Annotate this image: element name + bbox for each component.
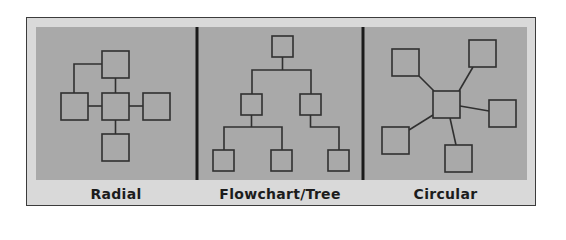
node-right bbox=[489, 100, 516, 127]
edge-center-top-left bbox=[419, 76, 434, 91]
edge-center-right bbox=[460, 106, 489, 111]
node-mid-left bbox=[241, 94, 262, 115]
node-leaf-2 bbox=[271, 150, 292, 171]
node-right bbox=[143, 93, 170, 120]
label-circular: Circular bbox=[364, 184, 527, 204]
edge-center-bottom bbox=[450, 118, 456, 145]
node-left bbox=[61, 93, 88, 120]
tree-diagram bbox=[213, 36, 349, 171]
node-top bbox=[102, 51, 129, 78]
node-bottom-left bbox=[382, 127, 409, 154]
label-flowchart-tree: Flowchart/Tree bbox=[198, 184, 362, 204]
edge-mid-left-children bbox=[224, 115, 282, 150]
node-mid-right bbox=[300, 94, 321, 115]
node-center bbox=[433, 91, 460, 118]
edge-center-top-right bbox=[459, 67, 473, 91]
circular-diagram bbox=[382, 40, 516, 172]
label-radial: Radial bbox=[36, 184, 196, 204]
node-bottom bbox=[102, 134, 129, 161]
edge-mid-right-children bbox=[311, 115, 340, 150]
node-leaf-1 bbox=[213, 150, 234, 171]
node-top-left bbox=[392, 49, 419, 76]
radial-diagram bbox=[61, 51, 170, 161]
node-bottom bbox=[445, 145, 472, 172]
edge-top-left bbox=[74, 64, 102, 93]
node-root bbox=[272, 36, 293, 57]
node-leaf-3 bbox=[328, 150, 349, 171]
node-center bbox=[102, 93, 129, 120]
edge-center-bottom-left bbox=[409, 115, 433, 130]
edge-root-children bbox=[252, 57, 311, 94]
node-top-right bbox=[469, 40, 496, 67]
